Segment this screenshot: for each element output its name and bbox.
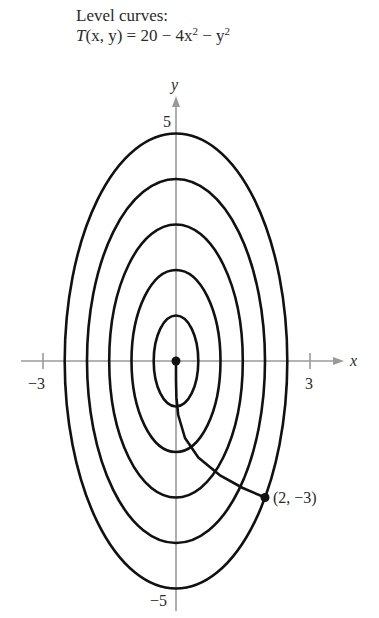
- x-tick-label-neg3: −3: [28, 375, 45, 392]
- y-tick-label-neg5: −5: [150, 592, 167, 609]
- x-tick-label-3: 3: [305, 375, 313, 392]
- point-2-neg3: [261, 493, 270, 502]
- level-curve-plot: x y −3 3 5 −5 (2, −3): [0, 0, 379, 618]
- y-tick-label-5: 5: [163, 113, 171, 130]
- origin-point: [172, 357, 181, 366]
- x-axis-arrow-icon: [333, 357, 344, 365]
- point-label: (2, −3): [273, 489, 317, 507]
- x-axis-label: x: [349, 352, 357, 369]
- y-axis-label: y: [169, 76, 179, 94]
- y-axis-arrow-icon: [172, 96, 180, 107]
